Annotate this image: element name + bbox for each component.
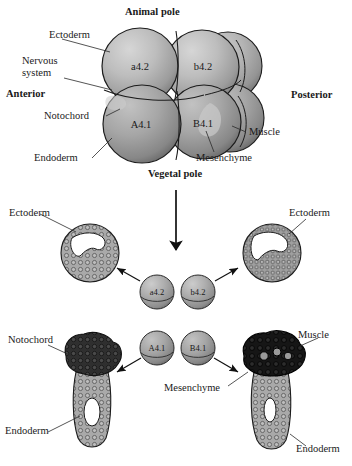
label-muscle-bottom: Muscle (298, 329, 329, 341)
derivative-muscle-mesenchyme-endoderm (228, 331, 318, 449)
leader-mesenchyme-bottom (228, 372, 248, 386)
derivative-notochord-endoderm (48, 332, 121, 447)
endoderm-left-lumen (84, 398, 100, 426)
leader-ectoderm-top (62, 39, 110, 52)
label-notochord-bottom: Notochord (8, 334, 53, 346)
arrow-B4-1-to-muscle (214, 358, 238, 372)
label-mesenchyme-bottom: Mesenchyme (164, 382, 220, 394)
label-ectoderm-left-bottom: Ectoderm (9, 207, 50, 219)
mesenchyme-cell-1 (260, 352, 268, 360)
mesenchyme-cell-2 (273, 348, 281, 356)
label-ectoderm-right-bottom: Ectoderm (289, 207, 330, 219)
label-endoderm-left-bottom: Endoderm (5, 425, 49, 437)
arrow-a4-2-to-ectoderm (117, 268, 140, 281)
embryo-8cell-group (62, 28, 264, 163)
label-endoderm-top: Endoderm (34, 152, 78, 164)
label-notochord-top: Notochord (44, 110, 89, 122)
mesenchyme-cell-3 (284, 352, 292, 360)
notochord-cluster (65, 332, 121, 375)
blastomere-label-A4-1: A4.1 (131, 119, 152, 130)
figure-canvas: a4.2 b4.2 A4.1 B4.1 a4.2 b4.2 A4.1 B4.1 … (0, 0, 352, 466)
derivative-ectoderm-right (243, 219, 306, 282)
blastomere-label-B4-1: B4.1 (193, 118, 213, 129)
label-nervous-system-line1: Nervous (22, 55, 58, 67)
blastomere-label-a4-2: a4.2 (131, 61, 149, 72)
blastomere-label-b4-2: b4.2 (194, 61, 212, 72)
label-animal-pole: Animal pole (125, 6, 180, 18)
label-ectoderm-top: Ectoderm (49, 29, 90, 41)
label-nervous-system-line2: system (22, 67, 51, 79)
isolated-label-B4-1: B4.1 (190, 343, 206, 353)
label-mesenchyme-top: Mesenchyme (196, 152, 252, 164)
label-muscle-top: Muscle (249, 126, 280, 138)
leader-endoderm-top (92, 138, 112, 158)
label-anterior: Anterior (6, 88, 45, 100)
label-vegetal-pole: Vegetal pole (148, 168, 202, 180)
diagram-svg: a4.2 b4.2 A4.1 B4.1 a4.2 b4.2 A4.1 B4.1 (0, 0, 352, 466)
label-endoderm-right-bottom: Endoderm (296, 443, 340, 455)
isolated-label-a4-2: a4.2 (150, 287, 164, 297)
leader-ectoderm-right (289, 219, 306, 234)
arrow-b4-2-to-ectoderm (215, 268, 238, 281)
endoderm-right-lumen (264, 398, 276, 422)
isolated-label-A4-1: A4.1 (149, 343, 166, 353)
label-posterior: Posterior (291, 89, 332, 101)
isolated-label-b4-2: b4.2 (191, 287, 206, 297)
